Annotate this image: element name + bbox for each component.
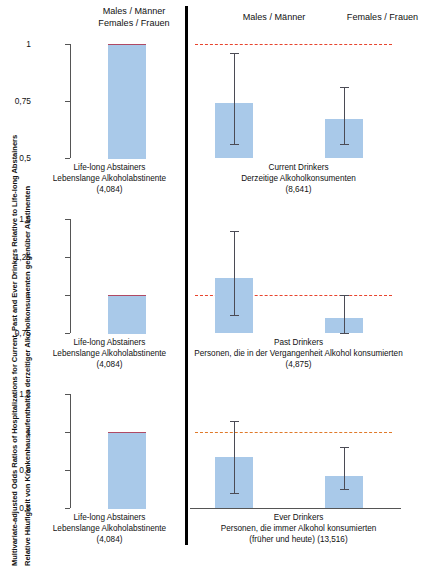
reference-line-or-1 xyxy=(195,432,392,433)
y-axis-tick xyxy=(65,44,70,45)
header-males: Males / Männer xyxy=(214,11,334,23)
bar-reference-abstainers xyxy=(108,44,146,159)
error-bar-males-ever-drinkers xyxy=(234,421,235,493)
caption-line: (früher und heute) (13,516) xyxy=(190,534,407,545)
bar-reference-abstainers xyxy=(108,295,146,334)
error-bar-cap-lower xyxy=(340,489,349,490)
error-bar-cap-lower xyxy=(230,493,239,494)
caption-line: Lebenslange Alkoholabstinente xyxy=(34,173,185,184)
y-axis-tick xyxy=(65,394,70,395)
y-axis-tick-label: 0,75 xyxy=(15,96,31,106)
footnote xyxy=(0,578,407,585)
column-headers: Males / Männer Females / Frauen Males / … xyxy=(34,2,407,38)
row-current-drinkers: 0,50,751Life-long AbstainersLebenslange … xyxy=(0,38,407,213)
caption-line: (4,084) xyxy=(34,184,185,195)
error-bar-cap-lower xyxy=(230,315,239,316)
y-axis-tick xyxy=(65,470,70,471)
error-bar-cap-upper xyxy=(230,53,239,54)
caption-line: Personen, die immer Alkohol konsumierten xyxy=(190,523,407,534)
error-bar-cap-upper xyxy=(340,447,349,448)
caption-line: (8,641) xyxy=(190,184,407,195)
caption-comparison-current-drinkers: Current DrinkersDerzeitige Alkoholkonsum… xyxy=(190,162,407,196)
y-axis-tick xyxy=(65,257,70,258)
caption-line: Lebenslange Alkoholabstinente xyxy=(34,348,185,359)
plot-area-reference-current-drinkers: 0,50,751 xyxy=(34,38,185,160)
plot-area-reference-ever-drinkers: 0,60,811,2 xyxy=(34,388,185,510)
plot-area-comparison-current-drinkers xyxy=(190,38,407,160)
caption-line: Personen, die in der Vergangenheit Alkoh… xyxy=(190,348,407,359)
row-past-drinkers: 0,7511,251,5Life-long AbstainersLebensla… xyxy=(0,213,407,388)
caption-reference-ever-drinkers: Life-long AbstainersLebenslange Alkohola… xyxy=(34,512,185,546)
plot-area-reference-past-drinkers: 0,7511,251,5 xyxy=(34,213,185,335)
y-axis-tick-label: 1,2 xyxy=(19,389,31,399)
caption-line: (4,084) xyxy=(34,359,185,370)
panel-reference-current-drinkers: 0,50,751Life-long AbstainersLebenslange … xyxy=(34,38,185,213)
panel-comparison-ever-drinkers: Ever DrinkersPersonen, die immer Alkohol… xyxy=(190,388,407,563)
error-bar-males-current-drinkers xyxy=(234,53,235,144)
y-axis-tick xyxy=(65,295,70,296)
error-bar-cap-upper xyxy=(230,421,239,422)
y-axis-tick-label: 1 xyxy=(26,39,31,49)
error-bar-cap-upper xyxy=(340,295,349,296)
y-axis-line-current-drinkers xyxy=(70,44,71,158)
error-bar-cap-upper xyxy=(230,231,239,232)
y-axis-tick-label: 0,8 xyxy=(19,465,31,475)
caption-line: Derzeitige Alkoholkonsumenten xyxy=(190,173,407,184)
error-bar-males-past-drinkers xyxy=(234,231,235,315)
caption-line: (4,084) xyxy=(34,534,185,545)
y-axis-tick-label: 1 xyxy=(26,427,31,437)
y-axis-tick xyxy=(65,219,70,220)
error-bar-cap-lower xyxy=(340,144,349,145)
y-axis-tick xyxy=(65,101,70,102)
caption-line: (4,875) xyxy=(190,359,407,370)
header-reference-females: Females / Frauen xyxy=(54,17,214,29)
error-bar-cap-lower xyxy=(230,144,239,145)
caption-line: Life-long Abstainers xyxy=(74,338,146,347)
header-females: Females / Frauen xyxy=(324,11,423,23)
error-bar-cap-lower xyxy=(340,333,349,334)
caption-reference-past-drinkers: Life-long AbstainersLebenslange Alkohola… xyxy=(34,337,185,371)
caption-line: Life-long Abstainers xyxy=(74,513,146,522)
caption-line: Ever Drinkers xyxy=(274,513,324,522)
error-bar-females-past-drinkers xyxy=(344,295,345,333)
header-reference-group: Males / Männer Females / Frauen xyxy=(54,5,214,29)
y-axis-tick-label: 0,75 xyxy=(15,328,31,338)
y-axis-tick xyxy=(65,333,70,334)
caption-line: Life-long Abstainers xyxy=(74,163,146,172)
x-axis-line xyxy=(190,508,401,509)
caption-comparison-ever-drinkers: Ever DrinkersPersonen, die immer Alkohol… xyxy=(190,512,407,546)
y-axis-tick xyxy=(65,432,70,433)
y-axis-tick-label: 1,5 xyxy=(19,214,31,224)
error-bar-cap-upper xyxy=(340,87,349,88)
y-axis-tick xyxy=(65,158,70,159)
caption-reference-current-drinkers: Life-long AbstainersLebenslange Alkohola… xyxy=(34,162,185,196)
header-reference-males: Males / Männer xyxy=(54,5,214,17)
plot-area-comparison-ever-drinkers xyxy=(190,388,407,510)
y-axis-tick-label: 0,6 xyxy=(19,503,31,513)
caption-line: Current Drinkers xyxy=(268,163,328,172)
error-bar-females-ever-drinkers xyxy=(344,447,345,489)
plot-area-comparison-past-drinkers xyxy=(190,213,407,335)
panel-reference-past-drinkers: 0,7511,251,5Life-long AbstainersLebensla… xyxy=(34,213,185,388)
y-axis-line-ever-drinkers xyxy=(70,394,71,508)
caption-line: Past Drinkers xyxy=(274,338,323,347)
y-axis-tick-label: 1 xyxy=(26,290,31,300)
y-axis-tick-label: 1,25 xyxy=(15,252,31,262)
y-axis-tick xyxy=(65,508,70,509)
y-axis-tick-label: 0,5 xyxy=(19,153,31,163)
error-bar-females-current-drinkers xyxy=(344,87,345,144)
y-axis-line-past-drinkers xyxy=(70,219,71,333)
bar-reference-abstainers xyxy=(108,432,146,509)
row-ever-drinkers: 0,60,811,2Life-long AbstainersLebenslang… xyxy=(0,388,407,563)
reference-line-or-1 xyxy=(195,44,392,45)
caption-line: Lebenslange Alkoholabstinente xyxy=(34,523,185,534)
panel-reference-ever-drinkers: 0,60,811,2Life-long AbstainersLebenslang… xyxy=(34,388,185,563)
panel-comparison-past-drinkers: Past DrinkersPersonen, die in der Vergan… xyxy=(190,213,407,388)
caption-comparison-past-drinkers: Past DrinkersPersonen, die in der Vergan… xyxy=(190,337,407,371)
panel-comparison-current-drinkers: Current DrinkersDerzeitige Alkoholkonsum… xyxy=(190,38,407,213)
